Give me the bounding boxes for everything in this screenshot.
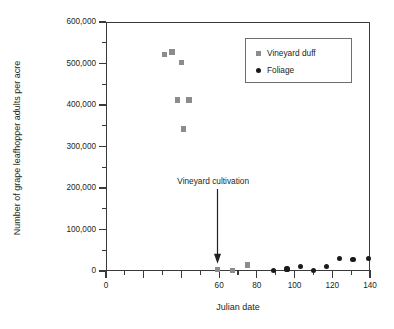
data-point-vineyard-duff xyxy=(179,60,184,65)
legend: Vineyard duff Foliage xyxy=(245,38,352,83)
data-point-vineyard-duff xyxy=(215,267,220,272)
y-tick-minor xyxy=(102,84,106,85)
data-point-foliage xyxy=(311,268,316,273)
x-tick-minor xyxy=(200,271,201,275)
y-tick-label: 400,000 xyxy=(66,100,96,109)
y-tick-major xyxy=(99,146,106,147)
x-axis-title: Julian date xyxy=(106,302,370,312)
data-point-vineyard-duff xyxy=(245,262,250,267)
data-point-foliage xyxy=(366,256,371,261)
y-axis-title: Number of grape leafhopper adults per ac… xyxy=(12,38,22,258)
y-tick-label: 600,000 xyxy=(66,17,96,26)
y-tick-minor xyxy=(102,250,106,251)
data-point-foliage xyxy=(284,266,289,271)
y-tick-major xyxy=(99,229,106,230)
y-tick-label: 100,000 xyxy=(66,225,96,234)
x-tick-major xyxy=(369,271,370,278)
x-tick-label: 140 xyxy=(350,281,390,290)
plot-right-border xyxy=(369,22,370,271)
y-tick-label: 500,000 xyxy=(66,59,96,68)
legend-square-marker-icon xyxy=(256,51,261,56)
data-point-vineyard-duff xyxy=(181,126,186,131)
data-point-vineyard-duff xyxy=(230,268,235,273)
annotation-down-arrow-icon xyxy=(213,189,222,264)
y-tick-major xyxy=(99,63,106,64)
y-tick-major xyxy=(99,187,106,188)
x-tick-major xyxy=(105,271,106,278)
x-tick-minor xyxy=(162,271,163,275)
x-tick-major xyxy=(332,271,333,278)
y-tick-minor xyxy=(102,208,106,209)
x-tick-label: 0 xyxy=(86,281,126,290)
y-tick-minor xyxy=(102,42,106,43)
x-tick-minor xyxy=(237,271,238,275)
data-point-vineyard-duff xyxy=(186,97,191,102)
y-tick-major xyxy=(99,21,106,22)
legend-circle-marker-icon xyxy=(256,68,261,73)
x-tick-minor xyxy=(124,271,125,275)
x-tick-label: 80 xyxy=(237,281,277,290)
annotation-label-vineyard-cultivation: Vineyard cultivation xyxy=(177,176,249,186)
x-tick-major xyxy=(143,271,144,278)
legend-entry-vineyard-duff: Vineyard duff xyxy=(256,48,316,58)
y-tick-label: 300,000 xyxy=(66,142,96,151)
x-tick-label: 100 xyxy=(275,281,315,290)
data-point-vineyard-duff xyxy=(169,49,174,54)
x-tick-label: 120 xyxy=(312,281,352,290)
x-tick-major xyxy=(181,271,182,278)
x-tick-minor xyxy=(351,271,352,275)
chart-figure: 0100,000200,000300,000400,000500,000600,… xyxy=(0,0,394,329)
legend-entry-foliage: Foliage xyxy=(256,65,294,75)
x-tick-major xyxy=(256,271,257,278)
x-tick-label: 60 xyxy=(199,281,239,290)
y-tick-major xyxy=(99,104,106,105)
data-point-vineyard-duff xyxy=(162,52,167,57)
y-tick-label: 0 xyxy=(91,266,96,275)
legend-label-foliage: Foliage xyxy=(267,65,294,75)
y-tick-label: 200,000 xyxy=(66,183,96,192)
data-point-foliage xyxy=(350,257,355,262)
x-tick-major xyxy=(294,271,295,278)
data-point-vineyard-duff xyxy=(175,97,180,102)
legend-label-vineyard-duff: Vineyard duff xyxy=(267,48,316,58)
y-tick-minor xyxy=(102,125,106,126)
y-tick-minor xyxy=(102,167,106,168)
